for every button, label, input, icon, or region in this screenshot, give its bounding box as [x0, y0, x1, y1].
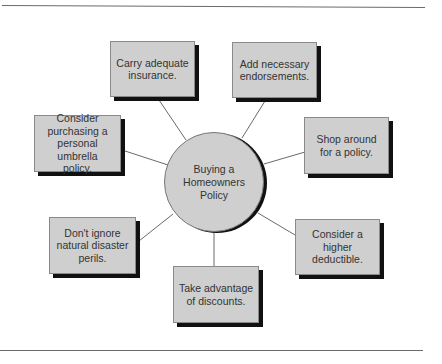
node-higher-deductible: Consider a higher deductible.	[295, 219, 380, 275]
connector-higher-deductible	[258, 213, 295, 235]
node-label: Carry adequate insurance.	[116, 57, 188, 82]
node-discounts: Take advantage of discounts.	[173, 266, 259, 323]
connector-add-endorsements	[242, 101, 265, 138]
node-label: Don't ignore natural disaster perils.	[57, 227, 129, 265]
node-label: Consider purchasing a personal umbrella …	[38, 112, 117, 175]
node-label: Shop around for a policy.	[316, 133, 376, 158]
center-hub-label: Buying a Homeowners Policy	[183, 163, 245, 202]
node-shop-around: Shop around for a policy.	[304, 117, 389, 174]
node-add-endorsements: Add necessary endorsements.	[232, 42, 317, 98]
node-umbrella-policy: Consider purchasing a personal umbrella …	[34, 115, 121, 172]
connector-disaster-perils	[139, 214, 173, 241]
node-label: Take advantage of discounts.	[179, 282, 253, 307]
node-disaster-perils: Don't ignore natural disaster perils.	[49, 217, 136, 274]
center-hub: Buying a Homeowners Policy	[164, 132, 264, 232]
connector-carry-insurance	[159, 100, 186, 140]
node-label: Consider a higher deductible.	[312, 228, 363, 266]
node-carry-insurance: Carry adequate insurance.	[110, 41, 195, 97]
connector-umbrella-policy	[122, 150, 168, 165]
node-label: Add necessary endorsements.	[240, 58, 309, 83]
connector-shop-around	[264, 152, 305, 164]
